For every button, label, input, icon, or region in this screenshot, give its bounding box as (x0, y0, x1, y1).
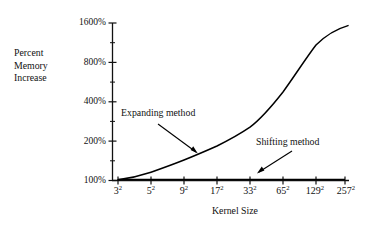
x-tick-label-257-exponent: 2 (352, 184, 355, 191)
x-tick-label-33-exponent: 2 (253, 184, 256, 191)
x-tick-label-65-base: 65 (276, 185, 286, 196)
x-tick-label-17: 172 (200, 185, 234, 196)
y-tick-label-200: 200% (60, 136, 106, 147)
y-tick-label-800: 800% (60, 57, 106, 68)
x-tick-label-65-exponent: 2 (286, 184, 289, 191)
x-tick-label-257-base: 257 (337, 185, 352, 196)
y-axis-title-line-1: Percent (14, 47, 48, 60)
y-axis-title: Percent Memory Increase (14, 47, 48, 85)
x-tick-label-5-exponent: 2 (152, 184, 155, 191)
x-tick-label-33-base: 33 (243, 185, 253, 196)
x-tick-label-3: 32 (101, 185, 135, 196)
x-tick-label-9: 92 (167, 185, 201, 196)
chart-figure: 1600% 800% 400% 200% 100% Percent Memory… (0, 0, 367, 231)
x-tick-label-5: 52 (134, 185, 168, 196)
x-tick-label-33: 332 (233, 185, 267, 196)
annotation-label-expanding-method: Expanding method (121, 108, 195, 119)
x-tick-label-3-exponent: 2 (119, 184, 122, 191)
x-tick-label-129: 1292 (298, 185, 332, 196)
x-tick-label-17-base: 17 (210, 185, 220, 196)
x-axis-title: Kernel Size (175, 206, 295, 217)
y-axis-title-line-2: Memory (14, 60, 48, 73)
x-tick-label-9-exponent: 2 (185, 184, 188, 191)
x-tick-label-129-base: 129 (306, 185, 321, 196)
x-tick-label-65: 652 (266, 185, 300, 196)
x-tick-label-257: 2572 (329, 185, 363, 196)
y-tick-label-400: 400% (60, 96, 106, 107)
x-tick-label-129-exponent: 2 (321, 184, 324, 191)
y-axis-title-line-3: Increase (14, 72, 48, 85)
x-tick-label-17-exponent: 2 (220, 184, 223, 191)
annotation-label-shifting-method: Shifting method (256, 137, 319, 148)
y-tick-label-1600: 1600% (60, 17, 106, 28)
y-tick-label-100: 100% (60, 175, 106, 186)
